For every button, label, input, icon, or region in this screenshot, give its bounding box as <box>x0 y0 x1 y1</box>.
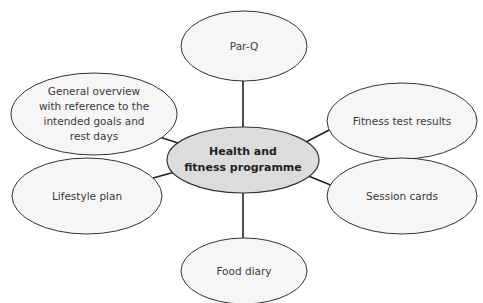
node-label-line: rest days <box>39 129 149 144</box>
node-label-line: General overview <box>39 84 149 99</box>
node-label-lifestyle-plan: Lifestyle plan <box>12 158 162 234</box>
node-label-food-diary: Food diary <box>181 238 307 303</box>
node-label-line: intended goals and <box>39 114 149 129</box>
node-label-general-overview: General overviewwith reference to theint… <box>11 73 177 155</box>
node-label-line: Par-Q <box>230 39 258 54</box>
node-label-line: Lifestyle plan <box>52 189 122 204</box>
node-label-line: Session cards <box>366 189 438 204</box>
center-label-line-1: Health and <box>184 144 302 160</box>
node-label-fitness-test-results: Fitness test results <box>327 83 477 159</box>
center-label-line-2: fitness programme <box>184 160 302 176</box>
node-label-session-cards: Session cards <box>327 158 477 234</box>
center-node-label: Health and fitness programme <box>167 127 319 193</box>
node-label-line: with reference to the <box>39 99 149 114</box>
node-label-line: Food diary <box>216 264 271 279</box>
node-label-parq: Par-Q <box>181 11 307 81</box>
node-label-line: Fitness test results <box>353 114 451 129</box>
